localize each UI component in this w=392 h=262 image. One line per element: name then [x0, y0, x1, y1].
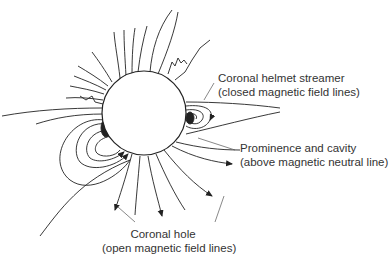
helmet-title: Coronal helmet streamer: [218, 71, 360, 85]
prominence-label: Prominence and cavity (above magnetic ne…: [240, 141, 388, 169]
coronal-hole-label: Coronal hole (open magnetic field lines): [102, 227, 224, 255]
helmet-streamer-label: Coronal helmet streamer (closed magnetic…: [218, 71, 360, 99]
hole-title: Coronal hole: [102, 227, 224, 241]
helmet-subtitle: (closed magnetic field lines): [218, 85, 360, 99]
corona-diagram: Coronal helmet streamer (closed magnetic…: [0, 0, 392, 262]
prominence-title: Prominence and cavity: [240, 141, 388, 155]
diagram-drawing: [0, 0, 392, 262]
hole-subtitle: (open magnetic field lines): [102, 241, 224, 255]
prominence-subtitle: (above magnetic neutral line): [240, 155, 388, 169]
field-lines: [2, 10, 280, 236]
